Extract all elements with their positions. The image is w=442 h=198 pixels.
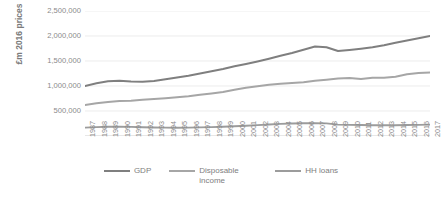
x-tick-label: 2002 [262,121,270,137]
x-tick-label: 2011 [365,122,373,137]
x-tick-label: 1989 [112,121,120,137]
y-tick-label: 1,000,000 [47,81,81,90]
x-tick-label: 2014 [400,121,408,137]
x-tick-label: 2009 [342,121,350,137]
x-tick-label: 2003 [273,121,281,137]
x-tick-label: 2015 [411,121,419,137]
legend-swatch-icon [169,170,195,172]
chart-legend: GDPDisposable incomeHH loans [0,166,442,196]
legend-swatch-icon [275,170,301,172]
x-tick-label: 1996 [193,121,201,137]
x-axis-tick-labels: 1987198819891990199119921993199419951996… [85,137,430,163]
x-tick-label: 2008 [331,121,339,137]
x-tick-label: 2010 [354,121,362,137]
x-tick-label: 2006 [308,121,316,137]
y-axis-tick-labels: 500,0001,000,0001,500,0002,000,0002,500,… [0,0,85,140]
x-tick-label: 1993 [158,121,166,137]
x-tick-label: 2001 [250,121,258,137]
x-tick-label: 2012 [377,121,385,137]
x-tick-label: 1995 [181,121,189,137]
x-tick-label: 2004 [285,121,293,137]
series-line [85,73,430,106]
x-tick-label: 2017 [434,121,442,137]
y-tick-label: 1,500,000 [47,56,81,65]
legend-item[interactable]: HH loans [275,166,338,176]
y-tick-label: 2,500,000 [47,6,81,15]
legend-item[interactable]: GDP [104,166,151,176]
legend-label: Disposable income [199,166,257,186]
x-tick-label: 2013 [388,121,396,137]
legend-item[interactable]: Disposable income [169,166,257,186]
x-tick-label: 1999 [227,121,235,137]
x-tick-label: 2016 [423,121,431,137]
legend-label: HH loans [305,166,338,176]
x-tick-label: 1990 [124,121,132,137]
x-tick-label: 1988 [101,121,109,137]
x-tick-label: 2007 [319,121,327,137]
x-tick-label: 1991 [135,121,143,137]
x-tick-label: 1997 [204,121,212,137]
plot-area [85,11,430,136]
x-tick-label: 1992 [147,121,155,137]
x-tick-label: 1998 [216,121,224,137]
x-tick-label: 1994 [170,121,178,137]
y-tick-label: 500,000 [54,106,81,115]
x-tick-label: 2000 [239,121,247,137]
x-tick-label: 1987 [89,121,97,137]
y-tick-label: 2,000,000 [47,31,81,40]
legend-swatch-icon [104,170,130,172]
legend-label: GDP [134,166,151,176]
x-tick-label: 2005 [296,121,304,137]
line-chart: £m 2016 prices 500,0001,000,0001,500,000… [0,0,442,198]
plot-canvas [85,11,430,136]
